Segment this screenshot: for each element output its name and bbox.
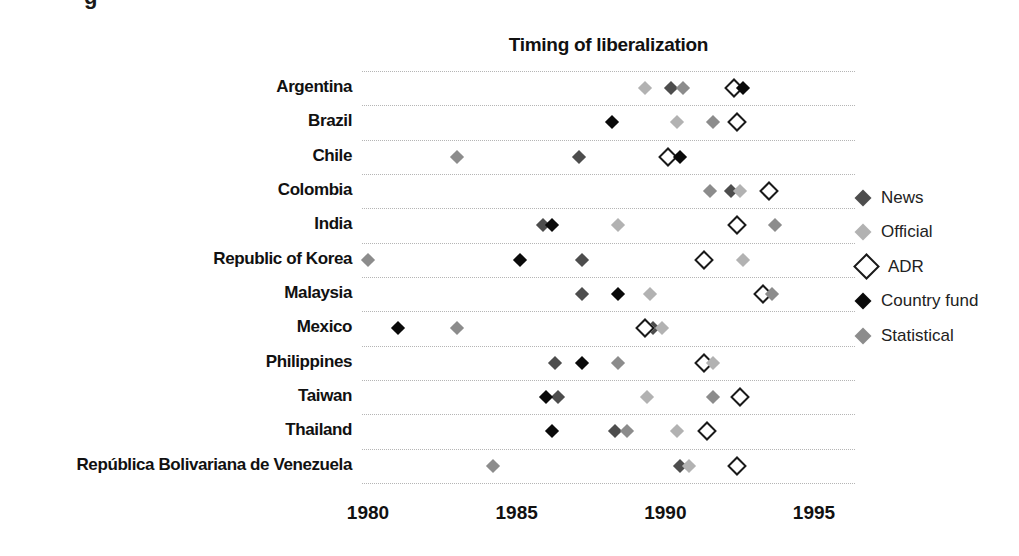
legend-item-country-fund: Country fund	[857, 291, 978, 311]
x-tick-1990: 1990	[644, 502, 686, 524]
data-point-icon	[551, 390, 565, 404]
legend-label: ADR	[888, 257, 924, 277]
data-point-icon	[611, 287, 625, 301]
data-point-icon	[670, 115, 684, 129]
liberalization-timing-chart: g Timing of liberalization NewsOfficialA…	[0, 0, 1019, 556]
data-point-icon	[682, 459, 696, 473]
gridline	[362, 311, 855, 312]
row-label-india: India	[0, 214, 352, 234]
data-point-icon	[733, 184, 747, 198]
row-label-thailand: Thailand	[0, 420, 352, 440]
data-point-icon	[706, 390, 720, 404]
data-point-icon	[703, 184, 717, 198]
gridline	[362, 71, 855, 72]
row-label-chile: Chile	[0, 146, 352, 166]
cropped-caption-fragment: g	[84, 0, 97, 10]
legend-label: Official	[881, 222, 933, 242]
data-point-icon	[513, 253, 527, 267]
news-marker-icon	[855, 190, 872, 207]
legend-label: Statistical	[881, 326, 954, 346]
data-point-icon	[361, 253, 375, 267]
legend-item-adr: ADR	[857, 257, 924, 277]
data-point-icon	[768, 218, 782, 232]
official-marker-icon	[855, 224, 872, 241]
data-point-icon	[670, 424, 684, 438]
x-tick-1995: 1995	[793, 502, 835, 524]
country-fund-marker-icon	[855, 293, 872, 310]
data-point-icon	[694, 250, 714, 270]
legend-item-statistical: Statistical	[857, 326, 954, 346]
data-point-icon	[575, 356, 589, 370]
data-point-icon	[673, 150, 687, 164]
data-point-icon	[572, 150, 586, 164]
data-point-icon	[759, 181, 779, 201]
data-point-icon	[545, 218, 559, 232]
data-point-icon	[539, 390, 553, 404]
statistical-marker-icon	[855, 327, 872, 344]
row-label-rep-blica-bolivariana-de-venezuela: República Bolivariana de Venezuela	[0, 455, 352, 475]
row-label-argentina: Argentina	[0, 77, 352, 97]
row-label-colombia: Colombia	[0, 180, 352, 200]
data-point-icon	[611, 218, 625, 232]
legend-item-news: News	[857, 188, 924, 208]
data-point-icon	[548, 356, 562, 370]
row-label-philippines: Philippines	[0, 352, 352, 372]
gridline	[362, 140, 855, 141]
legend-label: News	[881, 188, 924, 208]
legend-item-official: Official	[857, 222, 933, 242]
gridline	[362, 483, 855, 484]
x-tick-1980: 1980	[347, 502, 389, 524]
data-point-icon	[605, 115, 619, 129]
data-point-icon	[640, 390, 654, 404]
gridline	[362, 105, 855, 106]
data-point-icon	[450, 321, 464, 335]
gridline	[362, 449, 855, 450]
data-point-icon	[637, 81, 651, 95]
gridline	[362, 346, 855, 347]
gridline	[362, 414, 855, 415]
legend-label: Country fund	[881, 291, 978, 311]
data-point-icon	[620, 424, 634, 438]
x-tick-1985: 1985	[496, 502, 538, 524]
data-point-icon	[697, 422, 717, 442]
row-label-republic-of-korea: Republic of Korea	[0, 249, 352, 269]
data-point-icon	[545, 424, 559, 438]
data-point-icon	[450, 150, 464, 164]
row-label-malaysia: Malaysia	[0, 283, 352, 303]
data-point-icon	[391, 321, 405, 335]
gridline	[362, 208, 855, 209]
data-point-icon	[727, 113, 747, 133]
gridline	[362, 174, 855, 175]
data-point-icon	[727, 216, 747, 236]
chart-title: Timing of liberalization	[362, 34, 855, 56]
data-point-icon	[706, 115, 720, 129]
row-label-taiwan: Taiwan	[0, 386, 352, 406]
data-point-icon	[643, 287, 657, 301]
data-point-icon	[655, 321, 669, 335]
row-label-brazil: Brazil	[0, 111, 352, 131]
data-point-icon	[730, 387, 750, 407]
gridline	[362, 380, 855, 381]
data-point-icon	[736, 253, 750, 267]
gridline	[362, 243, 855, 244]
data-point-icon	[611, 356, 625, 370]
adr-marker-icon	[853, 253, 880, 280]
data-point-icon	[575, 253, 589, 267]
data-point-icon	[486, 459, 500, 473]
data-point-icon	[676, 81, 690, 95]
data-point-icon	[727, 456, 747, 476]
gridline	[362, 277, 855, 278]
row-label-mexico: Mexico	[0, 317, 352, 337]
data-point-icon	[575, 287, 589, 301]
